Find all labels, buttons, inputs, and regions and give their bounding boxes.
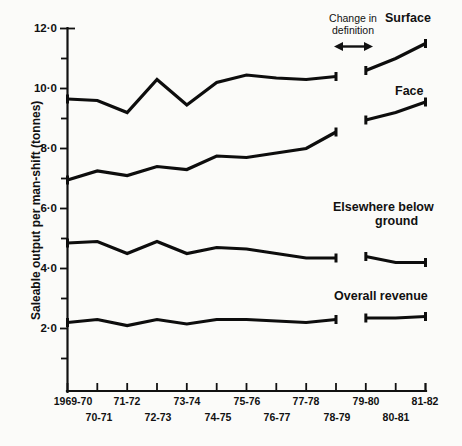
series-label-overall-revenue: Overall revenue — [334, 289, 428, 303]
y-tick-label-12: 12·0 — [34, 22, 57, 34]
change-in-definition-annotation: Change in definition — [329, 12, 377, 51]
series-group — [68, 39, 426, 327]
series-overall-revenue-pre — [68, 320, 337, 326]
x-tick-label-71-72: 71-72 — [114, 395, 141, 407]
y-axis-ticks — [60, 29, 67, 359]
series-face-pre — [68, 132, 337, 180]
definition-arrow-head-left — [334, 42, 343, 51]
chart-page: Saleable output per man-shift (tonnes) 1… — [0, 0, 462, 446]
series-face-post — [366, 102, 426, 120]
x-tick-labels-bottom: 70-71 72-73 74-75 76-77 78-79 80-81 — [86, 411, 410, 423]
x-tick-label-74-75: 74-75 — [205, 411, 232, 423]
y-tick-label-2: 2·0 — [40, 322, 57, 334]
x-tick-label-80-81: 80-81 — [383, 411, 410, 423]
x-tick-label-70-71: 70-71 — [86, 411, 113, 423]
series-overall-revenue-post — [366, 317, 426, 319]
x-tick-label-73-74: 73-74 — [174, 395, 201, 407]
series-elsewhere-below-ground-pre — [68, 242, 337, 259]
series-label-elsewhere-below-ground-line2: ground — [375, 214, 418, 228]
x-tick-label-79-80: 79-80 — [353, 395, 380, 407]
x-tick-label-1969-70: 1969-70 — [54, 395, 93, 407]
x-axis-ticks — [68, 383, 426, 391]
definition-arrow-head-right — [364, 42, 373, 51]
line-chart: Saleable output per man-shift (tonnes) 1… — [0, 0, 462, 446]
change-in-definition-line2: definition — [332, 24, 374, 36]
change-in-definition-line1: Change in — [329, 12, 377, 24]
series-label-surface: Surface — [385, 11, 431, 25]
y-tick-label-8: 8·0 — [40, 142, 57, 154]
x-tick-label-78-79: 78-79 — [324, 411, 351, 423]
series-elsewhere-below-ground-post — [366, 257, 426, 263]
series-label-face: Face — [395, 84, 424, 98]
x-tick-label-81-82: 81-82 — [412, 395, 439, 407]
x-tick-label-75-76: 75-76 — [234, 395, 261, 407]
series-surface-pre — [68, 75, 337, 113]
series-surface-post — [366, 44, 426, 71]
x-tick-label-76-77: 76-77 — [264, 411, 291, 423]
y-tick-label-4: 4·0 — [40, 262, 57, 274]
x-tick-label-77-78: 77-78 — [293, 395, 320, 407]
y-tick-label-10: 10·0 — [34, 82, 57, 94]
x-tick-label-72-73: 72-73 — [145, 411, 172, 423]
x-tick-labels-top: 1969-70 71-72 73-74 75-76 77-78 79-80 81… — [54, 395, 439, 407]
y-tick-label-6: 6·0 — [40, 202, 57, 214]
series-label-elsewhere-below-ground-line1: Elsewhere below — [333, 200, 434, 214]
